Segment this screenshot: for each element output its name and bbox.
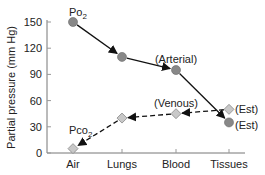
- x-tick-label: Tissues: [210, 158, 248, 170]
- pco2-point: [68, 144, 78, 154]
- x-tick-label: Air: [66, 158, 80, 170]
- y-tick-label: 90: [30, 68, 42, 80]
- pco2-point: [117, 113, 127, 123]
- arterial-annotation: (Arterial): [155, 53, 197, 65]
- y-tick-label: 150: [24, 16, 42, 28]
- po2-segment: [180, 74, 225, 119]
- y-tick-label: 0: [36, 147, 42, 159]
- pco2-segment: [128, 114, 171, 117]
- y-tick-label: 30: [30, 121, 42, 133]
- venous-annotation: (Venous): [154, 97, 198, 109]
- po2-point: [118, 52, 127, 61]
- po2-segment: [77, 25, 117, 54]
- y-axis-label: Partial pressure (mm Hg): [5, 26, 17, 149]
- pco2-point: [171, 109, 181, 119]
- pco2-est-annotation: (Est): [235, 103, 258, 115]
- y-tick-label: 60: [30, 95, 42, 107]
- po2-point: [69, 18, 78, 27]
- pco2-series-label: Pco2: [69, 124, 93, 139]
- x-tick-label: Lungs: [107, 158, 137, 170]
- po2-point: [172, 66, 181, 75]
- y-tick-label: 120: [24, 42, 42, 54]
- po2-est-annotation: (Est): [235, 119, 258, 131]
- series-layer: [68, 18, 234, 154]
- po2-point: [225, 118, 234, 127]
- partial-pressure-chart: 0306090120150AirLungsBloodTissuesPartial…: [0, 0, 265, 175]
- axes: 0306090120150AirLungsBloodTissuesPartial…: [5, 16, 248, 170]
- pco2-point: [224, 104, 234, 114]
- x-tick-label: Blood: [162, 158, 190, 170]
